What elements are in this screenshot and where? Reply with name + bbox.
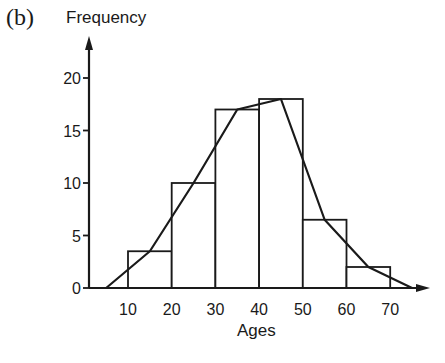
y-tick-label: 10 xyxy=(63,175,81,192)
histogram-bars xyxy=(128,99,390,288)
x-tick-label: 40 xyxy=(250,301,268,318)
y-tick-label: 0 xyxy=(72,280,81,297)
x-tick-label: 10 xyxy=(119,301,137,318)
histogram-bar xyxy=(347,267,391,288)
y-tick-label: 5 xyxy=(72,228,81,245)
histogram-chart: 0510152010203040506070 xyxy=(0,0,445,363)
x-tick-label: 30 xyxy=(207,301,225,318)
histogram-bar xyxy=(303,220,347,288)
x-tick-label: 60 xyxy=(338,301,356,318)
y-axis-arrow-icon xyxy=(85,36,93,50)
histogram-bar xyxy=(172,183,216,288)
histogram-bar xyxy=(128,251,172,288)
x-tick-label: 20 xyxy=(163,301,181,318)
histogram-bar xyxy=(259,99,303,288)
y-tick-label: 20 xyxy=(63,70,81,87)
x-tick-label: 50 xyxy=(294,301,312,318)
y-tick-label: 15 xyxy=(63,123,81,140)
x-tick-label: 70 xyxy=(381,301,399,318)
x-axis-arrow-icon xyxy=(416,284,430,292)
